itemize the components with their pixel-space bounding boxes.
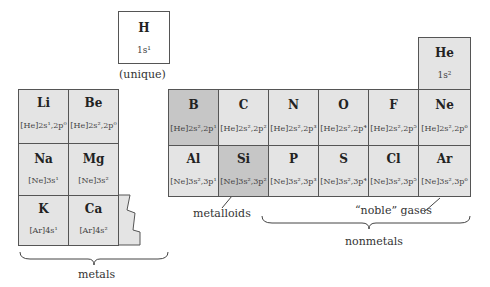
element-config: [Ne]3s²,3p²: [219, 177, 268, 186]
element-symbol: Al: [169, 152, 218, 166]
element-symbol: Be: [69, 96, 118, 110]
element-config: [Ne]3s²,3p⁴: [319, 177, 368, 186]
element-cell-h: H 1s¹: [118, 11, 170, 64]
element-symbol: K: [19, 202, 68, 216]
element-config: [Ne]3s¹: [19, 176, 68, 185]
element-cell-o: O[He]2s²,2p⁴: [318, 89, 369, 146]
element-cell-he: He 1s²: [418, 37, 471, 90]
element-symbol: He: [419, 46, 470, 60]
element-config: [Ne]3s²,3p⁶: [419, 177, 470, 186]
element-cell-f: F[He]2s²,2p⁵: [368, 89, 419, 146]
element-config: [He]2s²,2p²: [219, 124, 268, 133]
element-config: [Ar]4s²: [69, 226, 118, 235]
element-config: [Ne]3s²,3p¹: [169, 177, 218, 186]
element-symbol: Ar: [419, 152, 470, 166]
noble-gases-label: “noble” gases: [355, 204, 432, 217]
element-cell-ne: Ne[He]2s²,2p⁶: [418, 89, 471, 146]
nonmetals-label: nonmetals: [345, 235, 403, 248]
element-symbol: Ca: [69, 202, 118, 216]
element-cell-n: N[He]2s²,2p³: [268, 89, 319, 146]
element-cell-b: B[He]2s²,2p¹: [168, 89, 219, 146]
element-symbol: Na: [19, 152, 68, 166]
element-cell-mg: Mg[Ne]3s²: [68, 143, 119, 196]
element-symbol: Ne: [419, 98, 470, 112]
element-cell-be: Be[He]2s²,2p⁰: [68, 89, 119, 144]
element-cell-k: K[Ar]4s¹: [18, 195, 69, 246]
element-symbol: S: [319, 152, 368, 166]
element-symbol: Mg: [69, 152, 118, 166]
element-config: [Ne]3s²,3p³: [269, 177, 318, 186]
element-symbol: C: [219, 98, 268, 112]
element-symbol: O: [319, 98, 368, 112]
element-cell-p: P[Ne]3s²,3p³: [268, 145, 319, 197]
element-cell-si: Si[Ne]3s²,3p²: [218, 145, 269, 197]
element-config: [Ar]4s¹: [19, 226, 68, 235]
element-cell-li: Li[He]2s¹,2p⁰: [18, 89, 69, 144]
element-symbol: N: [269, 98, 318, 112]
unique-label: (unique): [119, 68, 166, 81]
element-cell-cl: Cl[Ne]3s²,3p⁵: [368, 145, 419, 197]
element-cell-c: C[He]2s²,2p²: [218, 89, 269, 146]
element-config: [Ne]3s²,3p⁵: [369, 177, 418, 186]
element-cell-s: S[Ne]3s²,3p⁴: [318, 145, 369, 197]
metals-label: metals: [78, 268, 115, 281]
element-cell-al: Al[Ne]3s²,3p¹: [168, 145, 219, 197]
element-config: [He]2s²,2p⁴: [319, 124, 368, 133]
element-symbol: Si: [219, 152, 268, 166]
element-config: 1s²: [419, 70, 470, 80]
element-config: [He]2s²,2p⁶: [419, 124, 470, 133]
element-config: [He]2s²,2p¹: [169, 124, 218, 133]
element-symbol: P: [269, 152, 318, 166]
element-config: [He]2s¹,2p⁰: [19, 121, 68, 130]
element-symbol: H: [119, 21, 169, 35]
element-symbol: Li: [19, 96, 68, 110]
element-config: 1s¹: [119, 45, 169, 55]
element-config: [Ne]3s²: [69, 176, 118, 185]
element-symbol: Cl: [369, 152, 418, 166]
element-config: [He]2s²,2p⁵: [369, 124, 418, 133]
element-symbol: B: [169, 98, 218, 112]
element-config: [He]2s²,2p³: [269, 124, 318, 133]
element-cell-ar: Ar[Ne]3s²,3p⁶: [418, 145, 471, 197]
metalloids-label: metalloids: [193, 207, 251, 220]
element-cell-ca: Ca[Ar]4s²: [68, 195, 119, 246]
element-config: [He]2s²,2p⁰: [69, 121, 118, 130]
element-cell-na: Na[Ne]3s¹: [18, 143, 69, 196]
element-symbol: F: [369, 98, 418, 112]
